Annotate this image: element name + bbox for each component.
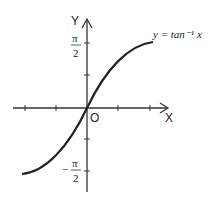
x-axis-label: X: [165, 111, 173, 125]
pi-half-numerator: π: [72, 32, 78, 44]
y-axis-label: Y: [71, 14, 79, 28]
pi-half-denominator: 2: [73, 47, 79, 59]
neg-pi-half-numerator: π: [72, 157, 78, 169]
arctan-chart: Y X O π 2 − π 2 y = tan⁻¹ x: [0, 0, 220, 202]
neg-pi-half-sign: −: [62, 163, 68, 175]
origin-label: O: [90, 111, 99, 125]
function-label: y = tan⁻¹ x: [152, 28, 202, 40]
neg-pi-half-denominator: 2: [73, 172, 79, 184]
